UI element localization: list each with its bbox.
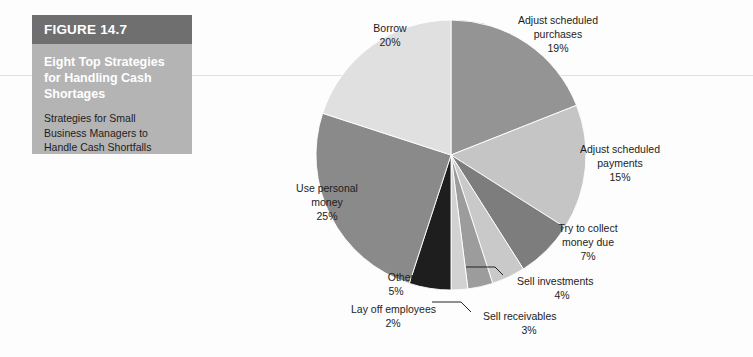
label-adjust-payments-line2: payments bbox=[597, 157, 643, 169]
label-adjust-purchases-line1: Adjust scheduled bbox=[518, 14, 598, 26]
label-adjust-purchases-line2: purchases bbox=[534, 28, 582, 40]
pie-chart-area: Adjust scheduled purchases 19% Adjust sc… bbox=[255, 0, 753, 357]
figure-title: Eight Top Strategies for Handling Cash S… bbox=[44, 54, 180, 102]
label-adjust-payments-percent: 15% bbox=[609, 171, 630, 183]
label-other: Other bbox=[388, 271, 415, 283]
label-collect-money-line1: Try to collect bbox=[558, 222, 617, 234]
label-collect-money-percent: 7% bbox=[580, 250, 595, 262]
figure-number-header: FIGURE 14.7 bbox=[32, 15, 192, 44]
label-lay-off-employees-percent: 2% bbox=[385, 317, 400, 329]
label-sell-receivables: Sell receivables bbox=[483, 310, 557, 322]
pie-chart-svg: Adjust scheduled purchases 19% Adjust sc… bbox=[255, 0, 753, 357]
label-lay-off-employees: Lay off employees bbox=[351, 303, 436, 315]
figure-page: FIGURE 14.7 Eight Top Strategies for Han… bbox=[0, 0, 753, 357]
label-adjust-payments-line1: Adjust scheduled bbox=[580, 143, 660, 155]
label-use-personal-money-percent: 25% bbox=[316, 210, 337, 222]
label-collect-money-line2: money due bbox=[562, 236, 614, 248]
label-other-percent: 5% bbox=[388, 285, 403, 297]
leader-line-sell-receivables bbox=[432, 302, 471, 312]
figure-caption-block: FIGURE 14.7 Eight Top Strategies for Han… bbox=[32, 15, 192, 154]
pie-slice-group bbox=[316, 20, 586, 290]
label-adjust-purchases-percent: 19% bbox=[547, 42, 568, 54]
label-use-personal-money-line1: Use personal bbox=[296, 182, 358, 194]
label-sell-receivables-percent: 3% bbox=[521, 324, 536, 336]
label-use-personal-money-line2: money bbox=[311, 196, 343, 208]
figure-subtitle: Strategies for Small Business Managers t… bbox=[44, 111, 180, 155]
label-sell-investments: Sell investments bbox=[517, 275, 593, 287]
label-sell-investments-percent: 4% bbox=[554, 289, 569, 301]
label-borrow-percent: 20% bbox=[379, 36, 400, 48]
figure-caption-body: Eight Top Strategies for Handling Cash S… bbox=[32, 44, 192, 154]
label-borrow: Borrow bbox=[373, 22, 407, 34]
